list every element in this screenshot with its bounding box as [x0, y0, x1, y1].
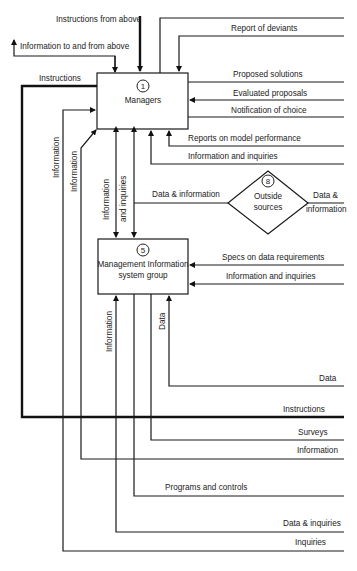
flow-info-inquiries-mis: Information and inquiries — [190, 272, 344, 284]
flow-reports-model-performance: Reports on model performance — [169, 131, 344, 146]
outside-label-line1: Outside — [254, 192, 283, 201]
managers-node: 1 Managers — [97, 73, 188, 129]
label-info-to-from-above: Information to and from above — [20, 42, 130, 51]
label-instructions-from-above: Instructions from above — [56, 15, 142, 24]
label-info-inquiries-mis: Information and inquiries — [226, 272, 316, 281]
outside-label-line2: sources — [254, 203, 283, 212]
label-information-bottom: Information — [297, 446, 338, 455]
label-data-information-right-1: Data & — [313, 191, 339, 200]
label-data-information-right-2: information — [306, 205, 347, 214]
flow-report-of-deviants: Report of deviants — [179, 24, 344, 71]
flow-data-information-right: Data & information — [306, 191, 347, 214]
flow-proposed-solutions: Proposed solutions — [188, 70, 344, 82]
label-info-inquiries-top: Information and inquiries — [188, 152, 278, 161]
flow-info-and-inquiries-vertical: Information and inquiries — [102, 131, 134, 237]
flow-data-bottom: Data Data — [158, 296, 344, 386]
label-evaluated-proposals: Evaluated proposals — [233, 89, 307, 98]
flow-evaluated-proposals: Evaluated proposals — [190, 89, 344, 100]
label-instructions-left: Instructions — [39, 74, 81, 83]
managers-label: Managers — [125, 96, 161, 105]
label-vertical-data-mis: Data — [158, 312, 167, 330]
outside-number: 8 — [266, 177, 271, 186]
label-data-inquiries: Data & inquiries — [283, 519, 341, 528]
label-vertical-information-mis: Information — [105, 311, 114, 352]
label-vertical-info-inquiries-1: Information — [102, 179, 111, 220]
mis-label-line2: system group — [118, 271, 168, 280]
label-vertical-information-2: Information — [70, 151, 79, 192]
flow-data-information-left: Data & information — [134, 190, 228, 203]
mis-label-line1: Management Information — [97, 260, 188, 269]
information-flow-diagram: 1 Managers 5 Management Information syst… — [0, 0, 357, 571]
label-programs-controls: Programs and controls — [165, 483, 247, 492]
mis-node: 5 Management Information system group — [97, 239, 188, 294]
label-data-bottom: Data — [319, 374, 337, 383]
label-vertical-information-1: Information — [52, 137, 61, 178]
mis-number: 5 — [141, 246, 146, 255]
label-inquiries: Inquiries — [295, 538, 326, 547]
flow-info-to-from-above: Information to and from above — [14, 40, 130, 72]
label-vertical-info-inquiries-2: and inquiries — [119, 176, 128, 222]
label-reports-model-performance: Reports on model performance — [188, 134, 301, 143]
label-instructions-bottom: Instructions — [283, 405, 325, 414]
label-proposed-solutions: Proposed solutions — [233, 70, 303, 79]
label-notification-of-choice: Notification of choice — [231, 106, 307, 115]
label-surveys: Surveys — [298, 428, 328, 437]
managers-number: 1 — [141, 82, 146, 91]
label-data-information-left: Data & information — [152, 190, 220, 199]
flow-notification-of-choice: Notification of choice — [188, 106, 344, 117]
label-specs-data-requirements: Specs on data requirements — [222, 253, 324, 262]
label-report-of-deviants: Report of deviants — [231, 24, 297, 33]
outside-sources-node: 8 Outside sources — [228, 171, 308, 234]
flow-specs-data-requirements: Specs on data requirements — [190, 253, 344, 265]
